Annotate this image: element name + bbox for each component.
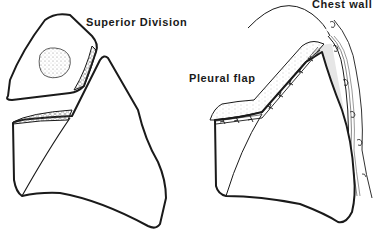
- superior-division-label: Superior Division: [86, 16, 187, 28]
- chest-wall-label: Chest wall: [312, 0, 372, 10]
- tumor-mass: [39, 48, 70, 78]
- left-panel: [7, 14, 166, 227]
- chest-wall-curve: [248, 6, 330, 36]
- right-panel: [210, 0, 380, 222]
- lobectomy-illustration: [0, 0, 381, 235]
- pleural-flap-label: Pleural flap: [189, 72, 256, 84]
